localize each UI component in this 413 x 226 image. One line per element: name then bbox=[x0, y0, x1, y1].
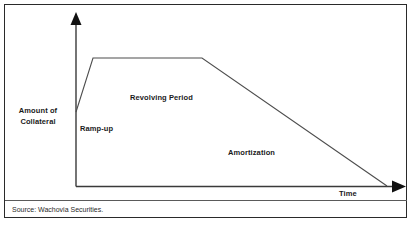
annotation-revolving-period: Revolving Period bbox=[130, 93, 193, 104]
y-axis-label-line-1: Amount of bbox=[19, 106, 57, 115]
y-axis-label: Amount of Collateral bbox=[12, 106, 64, 127]
annotation-amortization: Amortization bbox=[228, 148, 275, 159]
exhibit-figure: Amount of Collateral Ramp-up Revolving P… bbox=[0, 0, 413, 226]
source-note: Source: Wachovia Securities. bbox=[12, 206, 103, 213]
source-divider bbox=[5, 200, 407, 201]
collateral-curve bbox=[76, 58, 387, 186]
x-axis-arrow-icon bbox=[392, 181, 406, 193]
annotation-ramp-up: Ramp-up bbox=[80, 124, 113, 135]
x-axis-label: Time bbox=[339, 189, 357, 200]
y-axis-label-line-2: Collateral bbox=[20, 117, 55, 126]
y-axis-arrow-icon bbox=[71, 12, 82, 25]
